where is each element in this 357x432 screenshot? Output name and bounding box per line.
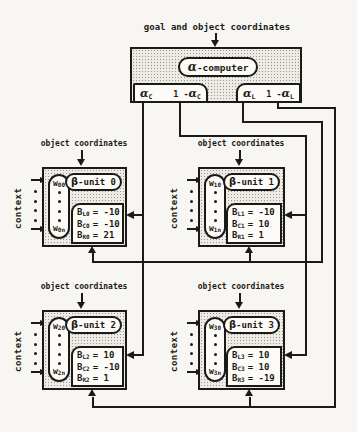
goal-input-arrowhead-icon <box>211 40 219 47</box>
wire-one-minus-alpha-l-bus <box>92 406 336 408</box>
object-coordinates-label-unit0: object coordinates <box>24 139 144 148</box>
weight-top-label: w20 <box>53 323 65 331</box>
wire-alpha-c-to-unit0 <box>133 214 144 216</box>
wire-one-minus-alpha-c-drop1 <box>179 102 181 137</box>
bias-row: BR1= 1 <box>232 230 280 242</box>
object-input-arrowhead-unit3-icon <box>235 302 243 309</box>
object-input-arrowhead-unit2-icon <box>77 302 85 309</box>
wire-alpha-l-stub-unit0 <box>92 252 94 263</box>
context-ellipsis-unit3 <box>190 333 193 365</box>
bias-row: BC2= -10 <box>77 362 122 374</box>
bias-row: BR2= 1 <box>77 373 122 385</box>
context-label-unit0: context <box>13 183 23 233</box>
beta-unit-2-title: β-unit 2 <box>65 316 122 334</box>
context-ellipsis-unit2 <box>34 333 37 365</box>
context-ellipsis-unit1 <box>190 190 193 222</box>
weight-bottom-label: w1n <box>209 225 221 233</box>
weight-top-label: w30 <box>209 323 221 331</box>
arrowhead-into-unit3-bottom-icon <box>245 389 253 396</box>
alpha-computer-title: α-computer <box>178 57 258 77</box>
weight-bottom-label: w0n <box>53 225 65 233</box>
arrowhead-into-unit2-bottom-icon <box>88 389 96 396</box>
weight-ellipsis <box>58 191 61 223</box>
wire-one-minus-alpha-l-drop2 <box>334 107 336 408</box>
bias-row: BR0= 21 <box>77 230 122 242</box>
arrowhead-into-unit1-bottom-icon <box>245 246 253 253</box>
wire-alpha-c-to-unit2 <box>133 354 144 356</box>
object-input-arrowhead-unit1-icon <box>235 159 243 166</box>
wire-one-minus-alpha-c-across <box>179 135 307 137</box>
wire-alpha-l-across <box>242 121 323 123</box>
wire-one-minus-alpha-l-stub-unit3 <box>249 397 251 408</box>
beta-unit-3-box: w30 w3n β-unit 3 BL3= 10 BC3= 10 BR3= -1… <box>198 310 285 390</box>
wire-one-minus-alpha-l-across <box>277 107 336 109</box>
arrowhead-into-unit0-bottom-icon <box>88 246 96 253</box>
alpha-title-rest: -computer <box>197 62 248 73</box>
object-coordinates-label-unit3: object coordinates <box>181 282 301 291</box>
diagram-canvas: goal and object coordinates α-computer α… <box>0 0 357 432</box>
wire-one-minus-alpha-c-to-unit3 <box>291 354 307 356</box>
object-input-arrowhead-unit0-icon <box>77 159 85 166</box>
context-label-unit3: context <box>169 326 179 376</box>
goal-coordinates-label: goal and object coordinates <box>127 22 307 32</box>
beta-unit-2-box: w20 w2n β-unit 2 BL2= 10 BC2= -10 BR2= 1 <box>42 310 127 390</box>
alpha-c-term: αC <box>140 88 152 99</box>
object-coordinates-label-unit1: object coordinates <box>181 139 301 148</box>
weight-bottom-label: w2n <box>53 368 65 376</box>
alpha-glyph: α <box>188 61 197 73</box>
bias-row: BL1= -10 <box>232 207 280 219</box>
beta-unit-1-bias-box: BL1= -10 BC1= 10 BR1= 1 <box>226 203 282 244</box>
context-label-unit2: context <box>13 326 23 376</box>
wire-alpha-l-stub-unit1 <box>249 252 251 263</box>
one-minus-alpha-c-term: 1 - αC <box>173 88 201 99</box>
beta-unit-1-title: β-unit 1 <box>223 173 280 191</box>
wire-alpha-l-drop2 <box>321 121 323 263</box>
wire-alpha-l-bus <box>92 261 323 263</box>
alpha-l-output-box: αL 1 - αL <box>236 83 301 103</box>
bias-row: BL2= 10 <box>77 350 122 362</box>
alpha-c-output-box: αC 1 - αC <box>133 83 208 103</box>
context-label-unit1: context <box>169 183 179 233</box>
wire-one-minus-alpha-l-stub-unit2 <box>92 397 94 408</box>
alpha-l-term: αL <box>243 88 255 99</box>
bias-row: BC1= 10 <box>232 219 280 231</box>
weight-ellipsis <box>58 334 61 366</box>
weight-top-label: w10 <box>209 180 221 188</box>
bias-row: BL0= -10 <box>77 207 122 219</box>
bias-row: BC0= -10 <box>77 219 122 231</box>
object-coordinates-label-unit2: object coordinates <box>24 282 144 291</box>
context-ellipsis-unit0 <box>34 190 37 222</box>
bias-row: BL3= 10 <box>232 350 280 362</box>
beta-unit-3-title: β-unit 3 <box>223 316 280 334</box>
beta-unit-3-bias-box: BL3= 10 BC3= 10 BR3= -19 <box>226 346 282 387</box>
beta-unit-2-bias-box: BL2= 10 BC2= -10 BR2= 1 <box>71 346 124 387</box>
beta-unit-0-title: β-unit 0 <box>65 173 122 191</box>
arrowhead-into-unit0-right-icon <box>126 211 134 219</box>
weight-bottom-label: w3n <box>209 368 221 376</box>
beta-unit-0-bias-box: BL0= -10 BC0= -10 BR0= 21 <box>71 203 124 244</box>
arrowhead-into-unit1-right-icon <box>284 211 292 219</box>
weight-ellipsis <box>214 334 217 366</box>
weight-ellipsis <box>214 191 217 223</box>
wire-one-minus-alpha-c-drop2 <box>305 135 307 356</box>
beta-unit-0-box: w00 w0n β-unit 0 BL0= -10 BC0= -10 BR0= … <box>42 167 127 247</box>
wire-one-minus-alpha-c-to-unit1 <box>291 214 307 216</box>
arrowhead-into-unit3-right-icon <box>284 351 292 359</box>
one-minus-alpha-l-term: 1 - αL <box>266 88 294 99</box>
wire-alpha-l-drop1 <box>242 102 244 123</box>
bias-row: BC3= 10 <box>232 362 280 374</box>
weight-top-label: w00 <box>53 180 65 188</box>
arrowhead-into-unit2-right-icon <box>126 351 134 359</box>
bias-row: BR3= -19 <box>232 373 280 385</box>
beta-unit-1-box: w10 w1n β-unit 1 BL1= -10 BC1= 10 BR1= 1 <box>198 167 285 247</box>
